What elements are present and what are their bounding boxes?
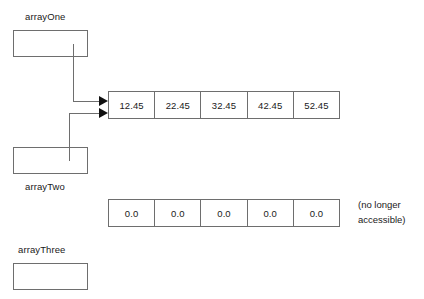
arraythree-label: arrayThree	[18, 244, 65, 255]
orphaned-note-line-1: (no longer	[358, 197, 406, 212]
array-cell: 0.0	[109, 200, 155, 226]
active-array: 12.45 22.45 32.45 42.45 52.45	[108, 91, 340, 119]
array-cell: 12.45	[109, 92, 155, 118]
arraytwo-ref-box	[13, 147, 88, 174]
array-cell: 52.45	[294, 92, 339, 118]
orphaned-array-note: (no longer accessible)	[358, 197, 406, 227]
arrayone-label: arrayOne	[25, 11, 65, 22]
diagram-canvas: arrayOne arrayTwo arrayThree 12.45 22.45…	[0, 0, 424, 299]
array-cell: 0.0	[248, 200, 294, 226]
array-cell: 0.0	[155, 200, 201, 226]
arrayone-ref-box	[13, 30, 88, 57]
array-cell: 42.45	[248, 92, 294, 118]
array-cell: 0.0	[201, 200, 247, 226]
array-cell: 32.45	[201, 92, 247, 118]
arraytwo-arrow-icon	[99, 108, 108, 118]
array-cell: 22.45	[155, 92, 201, 118]
orphaned-note-line-2: accessible)	[358, 212, 406, 227]
orphaned-array: 0.0 0.0 0.0 0.0 0.0	[108, 199, 340, 227]
arraytwo-label: arrayTwo	[25, 181, 65, 192]
arrayone-arrow-icon	[99, 96, 108, 106]
arraytwo-connector-vertical	[69, 113, 70, 161]
arrayone-connector-vertical	[73, 44, 74, 102]
arraythree-ref-box	[13, 263, 88, 290]
arraytwo-connector-horizontal	[69, 113, 100, 114]
array-cell: 0.0	[294, 200, 339, 226]
arrayone-connector-horizontal	[73, 101, 100, 102]
